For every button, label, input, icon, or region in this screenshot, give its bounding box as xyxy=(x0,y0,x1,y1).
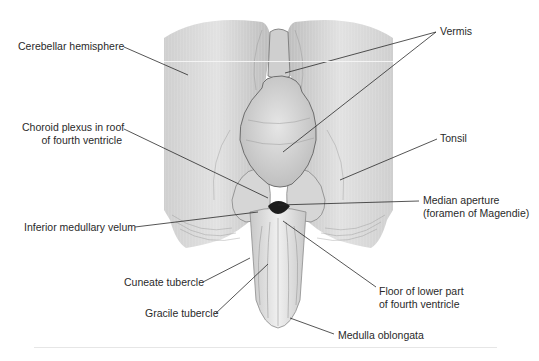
label-medulla-oblongata: Medulla oblongata xyxy=(338,329,424,342)
label-vermis: Vermis xyxy=(440,25,472,38)
label-cuneate-tubercle: Cuneate tubercle xyxy=(124,276,204,289)
label-floor-line1: Floor of lower part xyxy=(379,285,464,298)
label-choroid-plexus: Choroid plexus in roof of fourth ventric… xyxy=(22,121,122,147)
bottom-rule xyxy=(34,347,497,348)
label-choroid-plexus-line1: Choroid plexus in roof xyxy=(22,121,122,134)
medulla-oblongata xyxy=(250,208,306,328)
label-floor-fourth-ventricle: Floor of lower part of fourth ventricle xyxy=(379,285,464,311)
scan-line xyxy=(164,61,393,62)
label-median-aperture-line1: Median aperture xyxy=(423,194,529,207)
label-median-aperture-line2: (foramen of Magendie) xyxy=(423,207,529,220)
label-choroid-plexus-line2: of fourth ventricle xyxy=(22,134,122,147)
label-tonsil: Tonsil xyxy=(440,132,467,145)
label-inferior-medullary-velum: Inferior medullary velum xyxy=(24,221,136,234)
label-cerebellar-hemisphere: Cerebellar hemisphere xyxy=(18,40,124,53)
label-floor-line2: of fourth ventricle xyxy=(379,298,464,311)
label-median-aperture: Median aperture (foramen of Magendie) xyxy=(423,194,529,220)
label-gracile-tubercle: Gracile tubercle xyxy=(145,307,219,320)
